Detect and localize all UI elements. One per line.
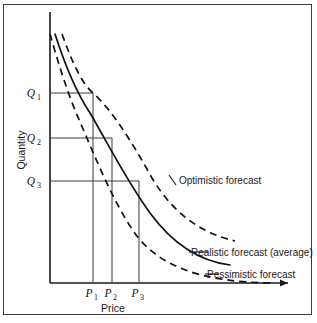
x-tick-label-p3-base: P xyxy=(130,287,138,299)
y-tick-label-q3-sub: 3 xyxy=(37,181,41,190)
optimistic-forecast-label: Optimistic forecast xyxy=(179,175,261,186)
x-tick-labels-group: P 1 P 2 P 3 xyxy=(84,287,144,302)
y-tick-label-q2-sub: 2 xyxy=(37,138,41,147)
optimistic-leader-line xyxy=(169,175,176,185)
y-tick-label-q1-base: Q xyxy=(27,87,36,99)
y-tick-label-q2-base: Q xyxy=(27,132,36,144)
x-tick-label-p1-sub: 1 xyxy=(94,293,98,302)
realistic-forecast-label: Realistic forecast (average) xyxy=(191,247,313,258)
y-tick-labels-group: Q 1 Q 2 Q 3 xyxy=(27,87,41,190)
x-tick-label-p3-sub: 3 xyxy=(140,293,144,302)
axis-group xyxy=(50,12,288,286)
x-axis-arrowhead xyxy=(280,280,288,287)
curves-group xyxy=(50,34,272,283)
x-tick-label-p2-base: P xyxy=(103,287,111,299)
chart-plot-area: Q 1 Q 2 Q 3 P 1 P 2 P 3 Quantity Price O… xyxy=(0,0,317,323)
y-tick-label-q3-base: Q xyxy=(27,175,36,187)
pessimistic-forecast-curve xyxy=(50,34,272,283)
y-axis-title: Quantity xyxy=(15,130,27,170)
x-tick-label-p1-base: P xyxy=(84,287,92,299)
y-tick-label-q1-sub: 1 xyxy=(37,93,41,102)
figure-container: Q 1 Q 2 Q 3 P 1 P 2 P 3 Quantity Price O… xyxy=(0,0,317,323)
pessimistic-forecast-label: Pessimistic forecast xyxy=(207,269,296,280)
x-axis-title: Price xyxy=(101,302,125,314)
x-tick-label-p2-sub: 2 xyxy=(113,293,117,302)
